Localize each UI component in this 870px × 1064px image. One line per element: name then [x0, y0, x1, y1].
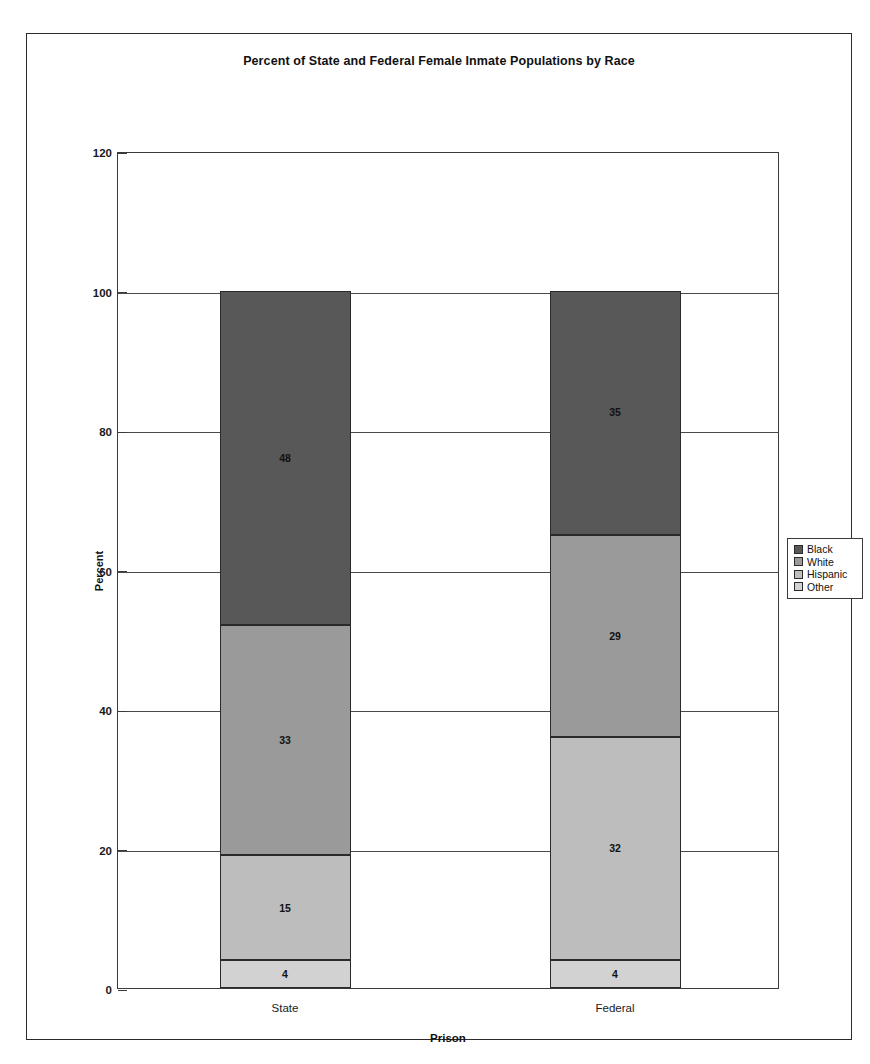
bar-segment[interactable]: 4 — [220, 960, 351, 988]
y-axis-tick: 20 — [99, 845, 118, 857]
y-axis-tick: 60 — [99, 566, 118, 578]
y-axis-tick: 40 — [99, 705, 118, 717]
y-axis-tick-label: 80 — [99, 426, 118, 438]
y-axis-tick: 0 — [106, 984, 118, 996]
legend-item-label: Other — [807, 582, 833, 593]
bar-value-label: 32 — [609, 843, 621, 854]
bar-segment[interactable]: 48 — [220, 291, 351, 626]
y-axis-tick-mark — [118, 292, 127, 293]
bar-value-label: 35 — [609, 407, 621, 418]
legend-swatch-icon — [794, 545, 803, 554]
bar-segment[interactable]: 29 — [550, 535, 681, 737]
y-axis-tick: 80 — [99, 426, 118, 438]
legend-swatch-icon — [794, 582, 803, 591]
bar-segment[interactable]: 15 — [220, 855, 351, 960]
y-axis-tick-mark — [118, 990, 127, 991]
y-axis-tick-label: 60 — [99, 566, 118, 578]
y-axis-tick-label: 0 — [106, 984, 118, 996]
y-axis-tick-mark — [118, 571, 127, 572]
legend-item[interactable]: Black — [794, 544, 856, 555]
x-axis-tick-label: Federal — [596, 1002, 635, 1014]
chart-title: Percent of State and Federal Female Inma… — [27, 54, 851, 68]
x-axis-tick-label: State — [272, 1002, 299, 1014]
y-axis-tick-mark — [118, 711, 127, 712]
y-axis-tick-label: 40 — [99, 705, 118, 717]
y-axis-tick-label: 100 — [93, 287, 118, 299]
bar-stack[interactable]: 4153348 — [220, 151, 351, 988]
y-axis-tick-mark — [118, 850, 127, 851]
y-axis-tick-label: 20 — [99, 845, 118, 857]
legend-item[interactable]: White — [794, 557, 856, 568]
figure-frame: Percent of State and Federal Female Inma… — [26, 33, 852, 1040]
bar-value-label: 48 — [279, 453, 291, 464]
y-axis-tick-label: 120 — [93, 147, 118, 159]
legend: BlackWhiteHispanicOther — [787, 538, 863, 599]
x-axis-title: Prison — [118, 1032, 778, 1044]
bar-value-label: 4 — [282, 969, 288, 980]
y-axis-tick-mark — [118, 153, 127, 154]
bar-value-label: 15 — [279, 903, 291, 914]
bar-value-label: 33 — [279, 735, 291, 746]
bar-value-label: 4 — [612, 969, 618, 980]
bar-segment[interactable]: 32 — [550, 737, 681, 960]
legend-item[interactable]: Other — [794, 582, 856, 593]
legend-swatch-icon — [794, 557, 803, 566]
bar-stack[interactable]: 4322935 — [550, 151, 681, 988]
bar-segment[interactable]: 4 — [550, 960, 681, 988]
bar-segment[interactable]: 35 — [550, 291, 681, 535]
legend-item[interactable]: Hispanic — [794, 569, 856, 580]
bar-value-label: 29 — [609, 631, 621, 642]
y-axis-tick-mark — [118, 432, 127, 433]
legend-item-label: White — [807, 557, 834, 568]
plot-area: Percent 020406080100120 41533484322935 S… — [117, 152, 779, 989]
y-axis-tick: 120 — [93, 147, 118, 159]
legend-item-label: Hispanic — [807, 569, 847, 580]
legend-swatch-icon — [794, 570, 803, 579]
y-axis-tick: 100 — [93, 287, 118, 299]
legend-item-label: Black — [807, 544, 833, 555]
bar-segment[interactable]: 33 — [220, 625, 351, 855]
